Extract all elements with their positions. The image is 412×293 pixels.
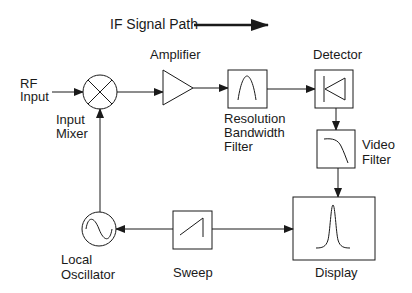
input-mixer-label-line1: Input bbox=[56, 112, 85, 127]
if-signal-path-title: IF Signal Path bbox=[110, 17, 198, 32]
video-filter-block bbox=[317, 130, 355, 168]
detector-label: Detector bbox=[313, 47, 362, 62]
local-oscillator-icon bbox=[82, 212, 116, 246]
video-filter-label-line2: Filter bbox=[362, 152, 391, 167]
amplifier-icon bbox=[163, 70, 193, 105]
rbw-filter-block bbox=[228, 70, 267, 108]
rbw-filter-label-line1: Resolution bbox=[224, 111, 285, 126]
block-diagram bbox=[0, 0, 412, 293]
local-oscillator-label-line2: Oscillator bbox=[61, 267, 115, 282]
display-label: Display bbox=[315, 265, 358, 280]
rbw-filter-label-line3: Filter bbox=[224, 139, 253, 154]
detector-block bbox=[315, 70, 353, 108]
amplifier-label: Amplifier bbox=[150, 47, 201, 62]
input-mixer-label-line2: Mixer bbox=[56, 126, 88, 141]
display-block bbox=[293, 197, 375, 260]
sweep-label: Sweep bbox=[173, 265, 213, 280]
video-filter-label-line1: Video bbox=[362, 137, 395, 152]
local-oscillator-label-line1: Local bbox=[61, 252, 92, 267]
sweep-block bbox=[173, 211, 212, 249]
rbw-filter-label-line2: Bandwidth bbox=[224, 125, 285, 140]
mixer-icon bbox=[83, 75, 117, 109]
rf-input-label-line2: Input bbox=[20, 89, 49, 104]
